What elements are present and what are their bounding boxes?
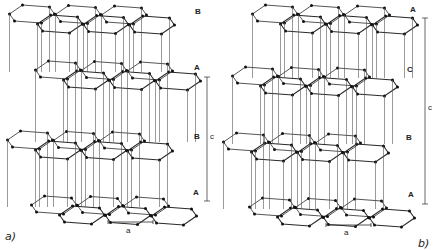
- layer-label-a-1: A: [194, 64, 200, 72]
- hexagon-ring: [253, 5, 298, 23]
- layer-label-a-3: A: [193, 189, 199, 197]
- carbon-atom: [76, 204, 79, 207]
- carbon-atom: [171, 150, 174, 153]
- layer-label-b-3: A: [408, 191, 414, 199]
- carbon-atom: [281, 132, 284, 135]
- hexagon-ring: [252, 143, 297, 161]
- carbon-atom: [319, 149, 322, 152]
- carbon-atom: [11, 146, 14, 149]
- carbon-atom: [327, 133, 330, 136]
- carbon-atom: [195, 215, 198, 218]
- carbon-atom: [19, 130, 22, 133]
- carbon-atom: [236, 82, 239, 85]
- hexagon-ring: [60, 206, 105, 224]
- carbon-atom: [39, 76, 42, 79]
- panel-caption-a: a): [5, 231, 16, 242]
- carbon-atom: [280, 215, 283, 218]
- carbon-atom: [144, 207, 147, 210]
- carbon-atom: [340, 207, 343, 210]
- carbon-atom: [122, 205, 125, 208]
- carbon-atom: [400, 226, 403, 229]
- carbon-atom: [302, 20, 305, 23]
- carbon-atom: [117, 205, 120, 208]
- carbon-atom: [30, 204, 33, 207]
- hexagon-ring: [64, 71, 109, 89]
- carbon-atom: [90, 223, 93, 226]
- carbon-atom: [281, 223, 284, 226]
- c-axis-label-a: c: [210, 133, 214, 141]
- carbon-atom: [368, 217, 371, 220]
- hexagon-ring: [100, 132, 145, 150]
- carbon-atom: [326, 215, 329, 218]
- hexagon-ring: [345, 6, 390, 24]
- carbon-atom: [43, 195, 46, 198]
- hexagon-ring: [250, 198, 295, 216]
- hexagon-ring: [307, 78, 352, 96]
- carbon-atom: [199, 80, 202, 83]
- hexagon-ring: [270, 134, 315, 152]
- hexagon-ring: [370, 209, 415, 227]
- carbon-atom: [373, 224, 376, 227]
- carbon-atom: [57, 146, 60, 149]
- hexagon-ring: [10, 5, 55, 23]
- carbon-atom: [127, 212, 130, 215]
- hexagon-ring: [299, 6, 344, 24]
- carbon-atom: [416, 24, 419, 27]
- hexagon-ring: [56, 6, 101, 24]
- carbon-atom: [145, 14, 148, 17]
- carbon-atom: [109, 221, 112, 224]
- carbon-atom: [273, 148, 276, 151]
- carbon-atom: [104, 214, 107, 217]
- layer-label-b-0: A: [410, 6, 416, 14]
- carbon-atom: [143, 140, 146, 143]
- carbon-atom: [282, 82, 285, 85]
- carbon-atom: [67, 4, 70, 7]
- carbon-atom: [13, 20, 16, 23]
- carbon-atom: [345, 214, 348, 217]
- carbon-atom: [70, 197, 73, 200]
- hexagon-ring: [278, 208, 323, 226]
- layer-label-b-2: B: [406, 134, 412, 142]
- carbon-atom: [294, 206, 297, 209]
- carbon-atom: [359, 142, 362, 145]
- c-axis-label-b: c: [428, 104, 432, 112]
- carbon-atom: [334, 199, 337, 202]
- carbon-atom: [380, 200, 383, 203]
- a-scale-label-a: a: [126, 227, 130, 235]
- hexagon-ring: [156, 72, 201, 90]
- carbon-atom: [362, 209, 365, 212]
- hexagon-ring: [298, 144, 343, 162]
- hexagon-ring: [130, 16, 175, 34]
- carbon-atom: [227, 148, 230, 151]
- carbon-atom: [155, 222, 158, 225]
- carbon-atom: [387, 152, 390, 155]
- hexagon-ring: [281, 15, 326, 33]
- carbon-atom: [89, 195, 92, 198]
- hexagon-ring: [224, 133, 269, 151]
- carbon-atom: [63, 221, 66, 224]
- carbon-atom: [85, 76, 88, 79]
- carbon-atom: [154, 214, 157, 217]
- carbon-atom: [105, 21, 108, 24]
- carbon-atom: [248, 206, 251, 209]
- carbon-atom: [408, 210, 411, 213]
- carbon-atom: [35, 211, 38, 214]
- carbon-atom: [21, 4, 24, 7]
- hexagon-ring: [32, 196, 77, 214]
- carbon-atom: [253, 213, 256, 216]
- carbon-atom: [113, 5, 116, 8]
- carbon-atom: [322, 216, 325, 219]
- carbon-atom: [131, 77, 134, 80]
- carbon-atom: [81, 211, 84, 214]
- hexagon-ring: [82, 62, 127, 80]
- hexagon-ring: [102, 6, 147, 24]
- crystal-structure-drawing: [0, 0, 436, 251]
- carbon-atom: [310, 4, 313, 7]
- hexagon-ring: [373, 16, 418, 34]
- carbon-atom: [162, 198, 165, 201]
- hexagon-ring: [327, 16, 372, 34]
- hexagon-ring: [128, 142, 173, 160]
- hexagon-ring: [36, 141, 81, 159]
- carbon-atom: [328, 83, 331, 86]
- hexagon-ring: [233, 67, 278, 85]
